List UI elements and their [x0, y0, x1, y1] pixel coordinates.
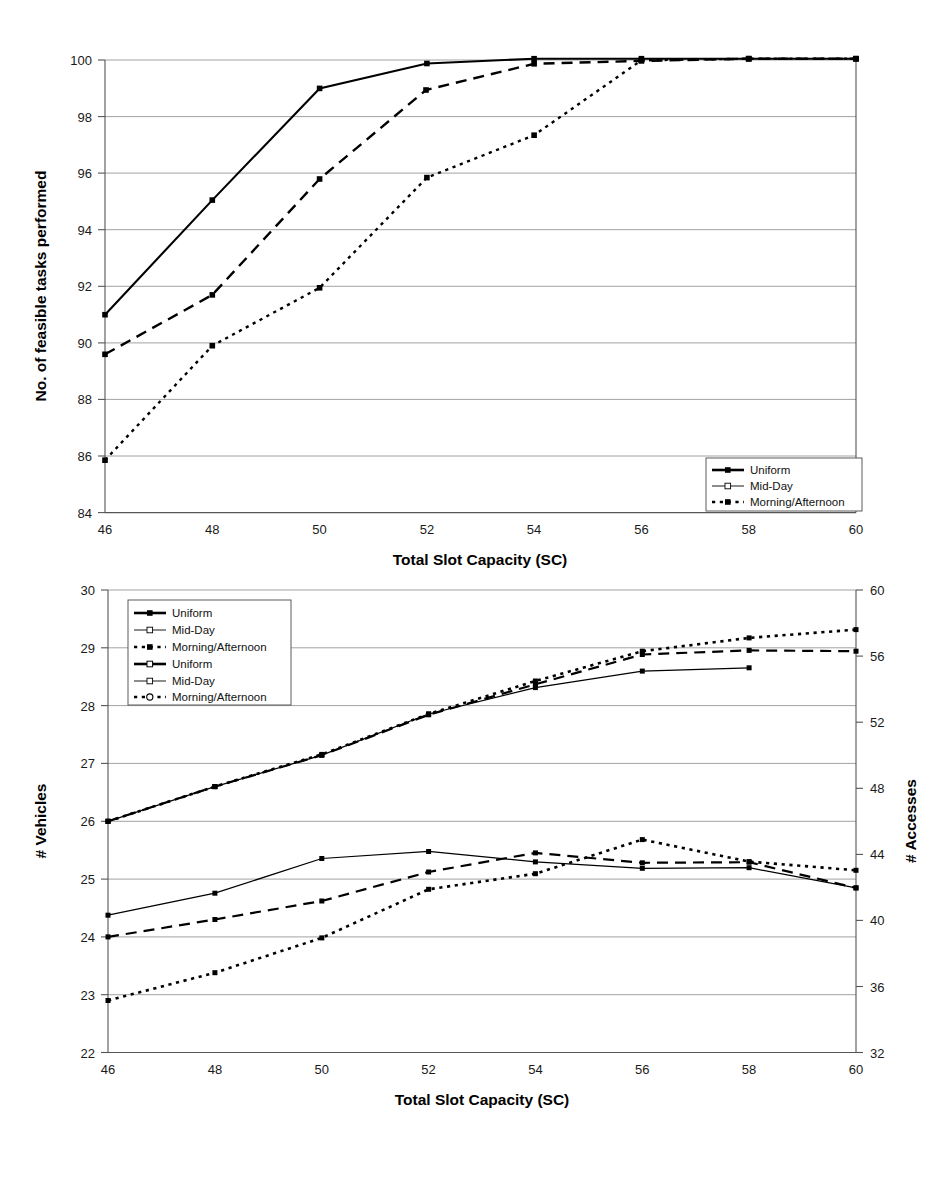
legend-label: Uniform [172, 607, 212, 619]
x-tick-label: 48 [208, 1062, 222, 1077]
x-tick-label: 60 [849, 1062, 863, 1077]
chart-top-legend: Uniform Mid-Day Morning/Afternoon [706, 458, 862, 511]
x-tick-label: 54 [527, 522, 541, 537]
y-tick-label: 92 [78, 279, 92, 294]
chart-bottom: 30 29 28 27 26 25 24 23 22 [0, 580, 943, 1160]
chart-bottom-legend: Uniform Mid-Day Morning/Afternoon Unifor… [128, 600, 291, 705]
legend-label: Mid-Day [750, 480, 793, 492]
y-tick-label-left: 26 [81, 814, 95, 829]
chart-bottom-right-y-ticks [856, 590, 863, 1053]
legend-label: Morning/Afternoon [750, 496, 845, 508]
chart-bottom-right-y-tick-labels: 60 56 52 48 44 40 36 32 [870, 583, 884, 1061]
y-tick-label-right: 36 [870, 980, 884, 995]
y-tick-label-right: 60 [870, 583, 884, 598]
legend-label: Mid-Day [172, 624, 215, 636]
y-tick-label: 94 [78, 223, 92, 238]
y-tick-label: 84 [78, 506, 92, 521]
y-tick-label-left: 22 [81, 1046, 95, 1061]
chart-bottom-y-axis-title-left: # Vehicles [32, 784, 49, 859]
marker-group [106, 850, 859, 939]
y-tick-label: 90 [78, 336, 92, 351]
chart-top-series-midday-markers [102, 56, 859, 357]
x-tick-label: 52 [421, 1062, 435, 1077]
x-tick-label: 56 [635, 1062, 649, 1077]
legend-label: Uniform [172, 658, 212, 670]
legend-label: Morning/Afternoon [172, 691, 267, 703]
y-tick-label-right: 44 [870, 847, 884, 862]
x-tick-label: 56 [634, 522, 648, 537]
y-tick-label: 88 [78, 392, 92, 407]
chart-top-gridlines [105, 60, 856, 456]
figure-two-line-charts: 100 98 96 94 92 90 88 86 84 46 48 50 52 … [0, 0, 943, 1184]
chart-bottom-series-vehicles-uniform [106, 849, 859, 918]
y-tick-label-right: 48 [870, 781, 884, 796]
y-tick-label: 100 [70, 53, 92, 68]
y-tick-label-left: 29 [81, 641, 95, 656]
chart-top-canvas: 100 98 96 94 92 90 88 86 84 46 48 50 52 … [0, 0, 943, 580]
y-tick-label-left: 30 [81, 583, 95, 598]
chart-bottom-canvas: 30 29 28 27 26 25 24 23 22 [0, 580, 943, 1160]
x-tick-label: 58 [742, 1062, 756, 1077]
y-tick-label-left: 27 [81, 756, 95, 771]
chart-bottom-series-vehicles-midday [106, 850, 859, 939]
chart-top-y-axis-title: No. of feasible tasks performed [32, 171, 49, 402]
chart-top: 100 98 96 94 92 90 88 86 84 46 48 50 52 … [0, 0, 943, 580]
x-tick-label: 60 [849, 522, 863, 537]
x-tick-label: 50 [312, 522, 326, 537]
x-tick-label: 54 [528, 1062, 542, 1077]
chart-top-series-midday [102, 56, 859, 357]
y-tick-label-right: 56 [870, 649, 884, 664]
y-tick-label-left: 24 [81, 930, 95, 945]
x-tick-label: 52 [420, 522, 434, 537]
y-tick-label: 96 [78, 166, 92, 181]
x-tick-label: 58 [741, 522, 755, 537]
chart-top-y-tick-labels: 100 98 96 94 92 90 88 86 84 [70, 53, 92, 521]
legend-label: Uniform [750, 464, 790, 476]
y-tick-label-right: 40 [870, 913, 884, 928]
y-tick-label: 98 [78, 110, 92, 125]
chart-top-x-tick-labels: 46 48 50 52 54 56 58 60 [98, 522, 863, 537]
chart-bottom-x-axis-title: Total Slot Capacity (SC) [395, 1091, 570, 1108]
y-tick-label-left: 25 [81, 872, 95, 887]
chart-bottom-left-y-tick-labels: 30 29 28 27 26 25 24 23 22 [81, 583, 95, 1061]
chart-top-series-uniform [102, 56, 859, 318]
chart-top-series-uniform-markers [102, 56, 859, 318]
x-tick-label: 48 [205, 522, 219, 537]
legend-label: Morning/Afternoon [172, 641, 267, 653]
chart-top-y-ticks [98, 60, 105, 513]
x-tick-label: 46 [98, 522, 112, 537]
legend-label: Mid-Day [172, 675, 215, 687]
chart-bottom-y-axis-title-right: # Accesses [902, 779, 919, 863]
y-tick-label-left: 28 [81, 699, 95, 714]
y-tick-label: 86 [78, 449, 92, 464]
y-tick-label-left: 23 [81, 988, 95, 1003]
chart-top-x-axis-title: Total Slot Capacity (SC) [393, 551, 568, 568]
x-tick-label: 50 [315, 1062, 329, 1077]
marker-group [106, 849, 859, 918]
y-tick-label-right: 52 [870, 715, 884, 730]
x-tick-label: 46 [101, 1062, 115, 1077]
y-tick-label-right: 32 [870, 1046, 884, 1061]
chart-bottom-x-tick-labels: 46 48 50 52 54 56 58 60 [101, 1062, 863, 1077]
